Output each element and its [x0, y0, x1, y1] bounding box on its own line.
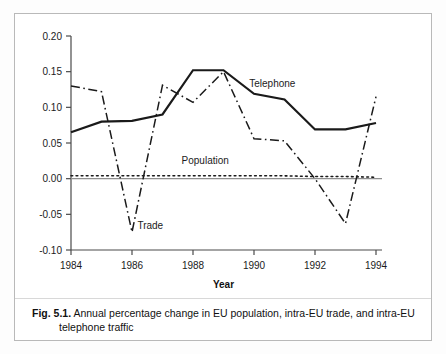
figure-root: 0.200.150.100.050.00-0.05-0.101984198619… — [0, 0, 446, 354]
series-line-population — [71, 176, 376, 177]
series-label-population: Population — [182, 155, 229, 166]
y-axis-tick-label: 0.15 — [43, 66, 63, 77]
figure-caption: Fig. 5.1. Annual percentage change in EU… — [32, 306, 422, 334]
figure-number: Fig. 5.1. — [32, 307, 71, 319]
series-line-trade — [71, 72, 376, 233]
y-axis-tick-label: 0.10 — [43, 102, 63, 113]
y-axis-tick-label: -0.10 — [39, 245, 62, 256]
chart-series-group — [71, 70, 376, 232]
x-axis-tick-label: 1994 — [365, 260, 388, 271]
caption-line-2: telephone traffic — [32, 320, 422, 334]
series-label-telephone: Telephone — [249, 78, 296, 89]
caption-divider — [15, 298, 431, 299]
y-axis-tick-label: 0.00 — [43, 173, 63, 184]
x-axis-tick-label: 1986 — [121, 260, 144, 271]
line-chart: 0.200.150.100.050.00-0.05-0.101984198619… — [0, 0, 446, 300]
series-label-trade: Trade — [137, 220, 163, 231]
x-axis-tick-label: 1992 — [304, 260, 327, 271]
x-axis-tick-label: 1990 — [243, 260, 266, 271]
caption-line-1: Fig. 5.1. Annual percentage change in EU… — [32, 306, 422, 320]
y-axis-tick-label: -0.05 — [39, 209, 62, 220]
x-axis-tick-label: 1988 — [182, 260, 205, 271]
y-axis-tick-label: 0.20 — [43, 31, 63, 42]
caption-text-1: Annual percentage change in EU populatio… — [73, 307, 414, 319]
chart-text-labels: TelephoneTradePopulation — [137, 78, 295, 230]
x-axis-tick-label: 1984 — [60, 260, 83, 271]
x-axis-title: Year — [213, 279, 234, 290]
chart-plot-area: 0.200.150.100.050.00-0.05-0.101984198619… — [0, 0, 446, 300]
y-axis-tick-label: 0.05 — [43, 138, 63, 149]
series-line-telephone — [71, 70, 376, 132]
